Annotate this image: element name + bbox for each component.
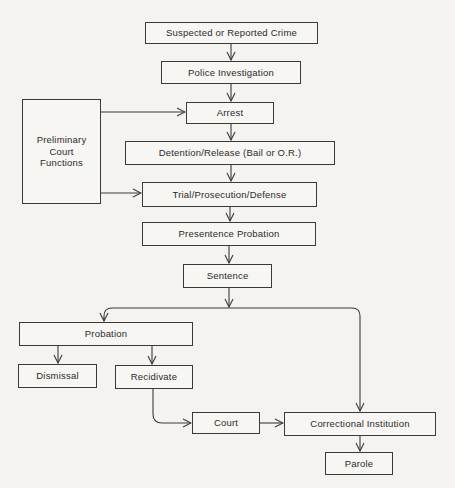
node-police-investigation: Police Investigation	[161, 61, 301, 84]
node-trial-prosecution-defense: Trial/Prosecution/Defense	[142, 182, 317, 207]
node-sentence: Sentence	[183, 264, 272, 288]
node-parole: Parole	[325, 452, 393, 475]
node-probation: Probation	[19, 322, 193, 346]
node-detention-release: Detention/Release (Bail or O.R.)	[125, 141, 335, 165]
node-presentence-probation: Presentence Probation	[142, 222, 316, 246]
node-suspected-crime: Suspected or Reported Crime	[145, 22, 318, 44]
node-preliminary-court-functions: Preliminary Court Functions	[22, 99, 101, 204]
node-dismissal: Dismissal	[18, 364, 97, 388]
node-arrest: Arrest	[186, 102, 274, 124]
node-correctional-institution: Correctional Institution	[284, 412, 436, 436]
node-recidivate: Recidivate	[115, 365, 193, 389]
node-court: Court	[192, 412, 260, 434]
